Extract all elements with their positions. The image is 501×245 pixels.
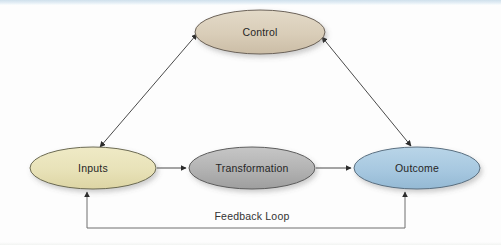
- edge-control-outcome: [322, 37, 411, 146]
- edge-feedback-loop: [87, 192, 405, 228]
- node-transformation[interactable]: [189, 147, 315, 189]
- node-control[interactable]: [195, 10, 325, 54]
- node-outcome[interactable]: [354, 147, 480, 189]
- diagram-canvas: [0, 0, 501, 245]
- process-diagram: Control Inputs Transformation Outcome Fe…: [0, 0, 501, 245]
- edge-inputs-control: [100, 34, 197, 147]
- node-inputs[interactable]: [30, 147, 156, 189]
